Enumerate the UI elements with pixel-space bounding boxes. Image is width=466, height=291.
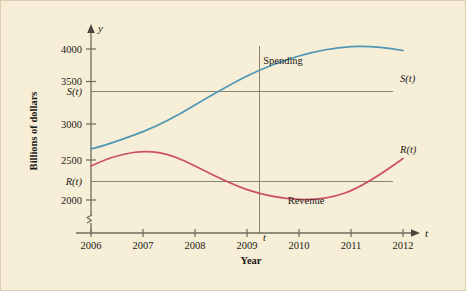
spending-curve: [91, 46, 403, 148]
s-level-label: S(t): [67, 86, 83, 98]
y-tick-label-2500: 2500: [61, 155, 82, 166]
r-level-label: R(t): [65, 176, 83, 188]
y-tick-label-2000: 2000: [61, 195, 82, 206]
x-tick-label-2008: 2008: [185, 240, 206, 251]
revenue-curve: [91, 152, 403, 200]
x-axis-arrow-icon: [411, 229, 420, 237]
series-curves: [91, 46, 403, 199]
x-tick-label-2010: 2010: [289, 240, 310, 251]
revenue-curve-tag: R(t): [399, 144, 417, 156]
y-tick-label-4000: 4000: [61, 44, 82, 55]
curve-tag-labels: S(t) R(t): [399, 73, 417, 156]
series-inline-labels: Spending Revenue: [263, 55, 325, 206]
axis-break-icon: [87, 215, 92, 223]
reference-lines: [91, 46, 393, 233]
x-tick-labels: 2006 2007 2008 2009 2010 2011 2012: [81, 240, 414, 251]
x-tick-label-2009: 2009: [237, 240, 258, 251]
x-axis-title: Year: [241, 255, 262, 266]
revenue-series-label: Revenue: [288, 195, 325, 206]
x-axis-symbol-label: t: [425, 227, 429, 239]
spending-curve-tag: S(t): [400, 73, 416, 85]
chart-canvas: 4000 3500 3000 2500 2000 S(t) R(t) t 200…: [1, 1, 466, 291]
y-axis-title: Billions of dollars: [28, 92, 39, 171]
y-axis-symbol-label: y: [97, 22, 103, 34]
axis-group: [76, 24, 420, 237]
y-tick-label-3000: 3000: [61, 119, 82, 130]
chart-figure: 4000 3500 3000 2500 2000 S(t) R(t) t 200…: [0, 0, 466, 291]
x-tick-label-2011: 2011: [341, 240, 362, 251]
x-tick-label-2006: 2006: [81, 240, 102, 251]
y-axis-arrow-icon: [87, 24, 95, 33]
spending-series-label: Spending: [263, 55, 303, 66]
x-tick-label-2012: 2012: [393, 240, 414, 251]
x-tick-label-2007: 2007: [133, 240, 154, 251]
